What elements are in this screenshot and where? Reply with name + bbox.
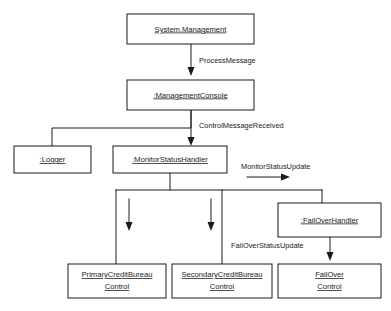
node-primary-credit-bureau-control-label-line1: PrimaryCreditBureau xyxy=(82,270,153,279)
node-logger-label: :Logger xyxy=(40,155,66,164)
diagram-svg: System.Management :ManagementConsole :Lo… xyxy=(0,0,391,311)
node-secondary-credit-bureau-control-label-line2: Control xyxy=(210,282,235,291)
node-management-console[interactable]: :ManagementConsole xyxy=(127,80,254,110)
node-fail-over-handler-label: :FailOverHandler xyxy=(301,216,359,225)
edge-label-monitor-status-update: MonitorStatusUpdate xyxy=(241,162,310,171)
node-monitor-status-handler-label: :MonitorStatusHandler xyxy=(132,155,208,164)
node-primary-credit-bureau-control-label-line2: Control xyxy=(105,282,130,291)
node-fail-over-control-label-line2: Control xyxy=(317,282,342,291)
edge-management-console-to-logger xyxy=(52,110,191,146)
node-fail-over-control-label-line1: FailOver xyxy=(315,270,344,279)
node-monitor-status-handler[interactable]: :MonitorStatusHandler xyxy=(113,146,227,173)
arrow-secondary-credit-bureau-head xyxy=(208,222,215,231)
edge-label-fail-over-status-update: FailOverStatusUpdate xyxy=(231,241,304,250)
edge-fail-over-status-update-arrowhead xyxy=(327,252,334,261)
node-management-console-label: :ManagementConsole xyxy=(153,91,227,100)
node-secondary-credit-bureau-control[interactable]: SecondaryCreditBureau Control xyxy=(172,264,272,298)
edge-monitor-status-update-arrowhead xyxy=(281,174,290,181)
uml-diagram-canvas: System.Management :ManagementConsole :Lo… xyxy=(0,0,391,311)
node-logger[interactable]: :Logger xyxy=(14,146,91,173)
node-primary-credit-bureau-control[interactable]: PrimaryCreditBureau Control xyxy=(68,264,166,298)
node-fail-over-handler[interactable]: :FailOverHandler xyxy=(278,203,381,237)
arrow-primary-credit-bureau-head xyxy=(126,222,133,231)
node-fail-over-control[interactable]: FailOver Control xyxy=(278,264,381,298)
edge-control-message-received-arrowhead xyxy=(188,137,195,146)
node-system-management[interactable]: System.Management xyxy=(127,14,254,44)
node-system-management-label: System.Management xyxy=(155,25,228,34)
edge-label-process-message: ProcessMessage xyxy=(199,56,256,65)
edge-label-control-message-received: ControlMessageReceived xyxy=(199,121,284,130)
node-secondary-credit-bureau-control-label-line1: SecondaryCreditBureau xyxy=(181,270,262,279)
edge-process-message-arrowhead xyxy=(188,67,195,76)
